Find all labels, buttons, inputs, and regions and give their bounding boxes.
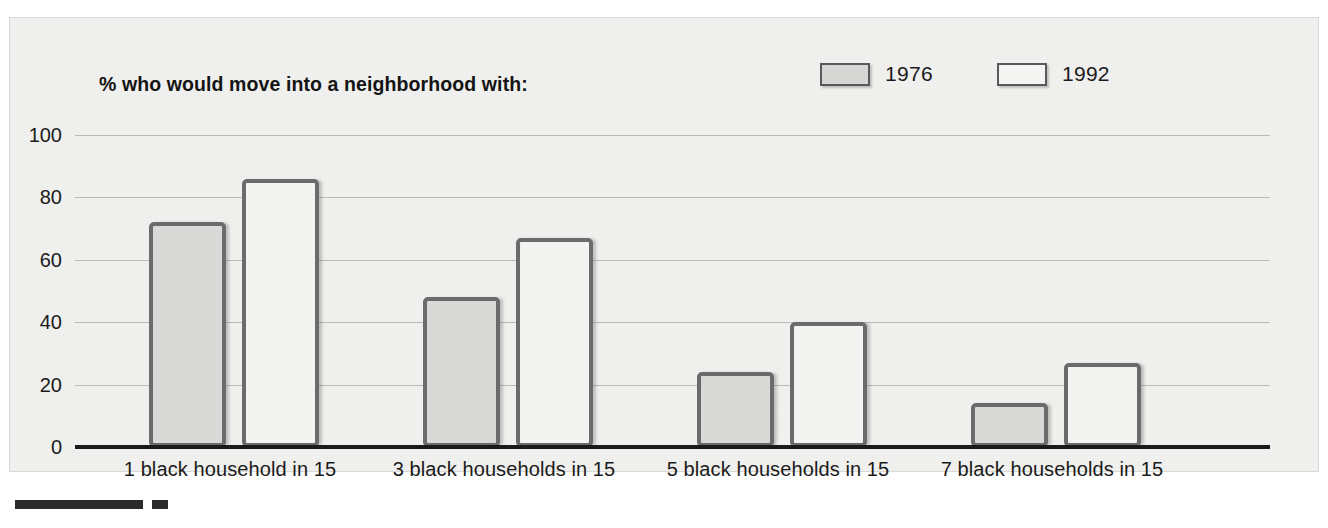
bar-1976-group-4 — [971, 403, 1048, 447]
y-tick-100: 100 — [29, 124, 62, 147]
bar-1992-group-4 — [1064, 363, 1141, 447]
chart-title: % who would move into a neighborhood wit… — [99, 73, 528, 96]
legend-label-1976: 1976 — [885, 62, 933, 86]
bar-1992-group-2 — [516, 238, 593, 447]
x-label-category-2: 3 black households in 15 — [384, 458, 624, 481]
x-axis-baseline — [75, 445, 1270, 449]
y-axis: 100 80 60 40 20 0 — [0, 135, 62, 447]
plot-area — [75, 135, 1270, 447]
y-tick-60: 60 — [40, 248, 62, 271]
x-label-category-1: 1 black household in 15 — [110, 458, 350, 481]
x-label-category-3: 5 black households in 15 — [658, 458, 898, 481]
y-tick-40: 40 — [40, 311, 62, 334]
figure-container: % who would move into a neighborhood wit… — [0, 0, 1328, 528]
legend-item-1976: 1976 — [820, 62, 933, 86]
legend-label-1992: 1992 — [1062, 62, 1110, 86]
gridline-100 — [75, 135, 1270, 136]
bar-1976-group-1 — [149, 222, 226, 447]
chart-legend: 1976 1992 — [820, 62, 1110, 86]
x-label-category-4: 7 black households in 15 — [932, 458, 1172, 481]
y-tick-20: 20 — [40, 373, 62, 396]
footer-rule-secondary — [152, 500, 168, 509]
legend-swatch-1992-icon — [997, 63, 1047, 86]
legend-swatch-1976-icon — [820, 63, 870, 86]
legend-item-1992: 1992 — [997, 62, 1110, 86]
bar-1976-group-2 — [423, 297, 500, 447]
footer-rule — [15, 500, 143, 509]
y-tick-0: 0 — [51, 436, 62, 459]
bar-1992-group-1 — [242, 179, 319, 447]
bar-1976-group-3 — [697, 372, 774, 447]
y-tick-80: 80 — [40, 186, 62, 209]
bar-1992-group-3 — [790, 322, 867, 447]
